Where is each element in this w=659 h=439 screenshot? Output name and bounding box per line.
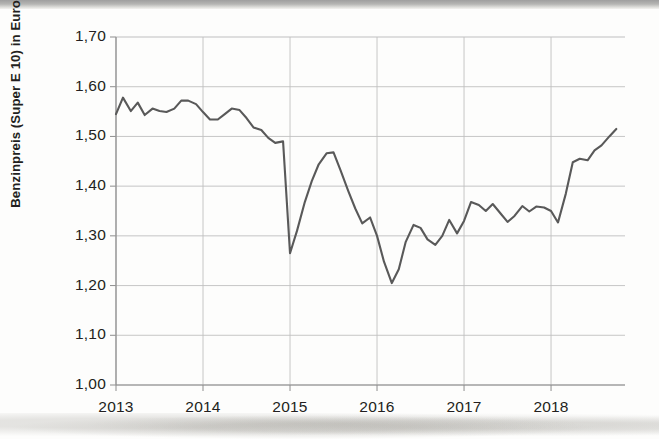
x-tick-label: 2013 [81,398,151,416]
y-tick-label: 1,00 [44,375,106,393]
data-series-line [116,98,616,283]
scan-artifact-bottom-smudge [0,413,659,439]
y-tick-label: 1,30 [44,226,106,244]
x-tick-label: 2017 [429,398,499,416]
y-tick-label: 1,50 [44,126,106,144]
y-tick-label: 1,20 [44,276,106,294]
x-tick-label: 2016 [342,398,412,416]
y-tick-label: 1,10 [44,325,106,343]
x-tick-label: 2018 [516,398,586,416]
y-tick-label: 1,70 [44,27,106,45]
y-tick-label: 1,60 [44,77,106,95]
x-tick-label: 2015 [255,398,325,416]
y-tick-label: 1,40 [44,176,106,194]
gasoline-price-line-chart: Benzinpreis (Super E 10) in Euro/Liter 1… [0,0,659,439]
x-tick-label: 2014 [168,398,238,416]
plot-area [0,0,659,439]
